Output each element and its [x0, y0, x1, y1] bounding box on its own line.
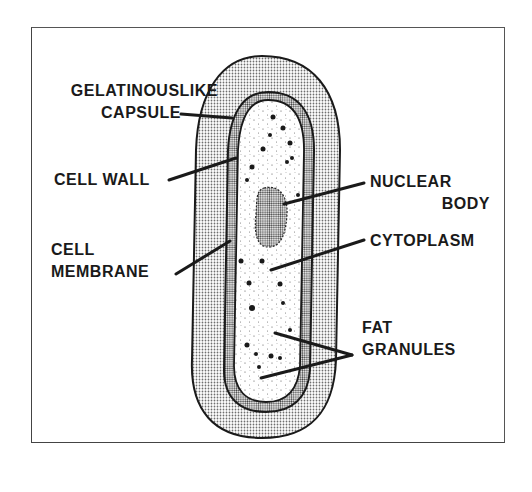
capsule-label: GELATINOUSLIKE CAPSULE: [45, 80, 218, 124]
fat-label-line1: FAT: [362, 317, 456, 339]
capsule-label-line1: GELATINOUSLIKE: [45, 80, 218, 102]
nuclear-body-label: NUCLEAR BODY: [370, 171, 490, 215]
fat-granules-label: FAT GRANULES: [362, 317, 456, 361]
fat-label-line2: GRANULES: [362, 339, 456, 361]
nuclear-label-line2: BODY: [370, 193, 490, 215]
cell-membrane-label: CELL MEMBRANE: [51, 239, 149, 283]
cell-wall-label: CELL WALL: [54, 169, 150, 191]
membrane-label-line1: CELL: [51, 239, 149, 261]
nuclear-label-line1: NUCLEAR: [370, 171, 490, 193]
membrane-label-line2: MEMBRANE: [51, 261, 149, 283]
capsule-label-line2: CAPSULE: [45, 102, 181, 124]
cytoplasm-label: CYTOPLASM: [370, 230, 475, 252]
